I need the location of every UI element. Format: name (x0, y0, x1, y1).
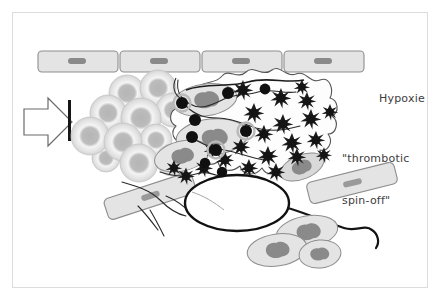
tumor-cell (185, 175, 289, 231)
endothelial-cell (38, 51, 118, 72)
flow-obstruction-bar (68, 100, 71, 141)
figure-root: Hypoxie "thrombotic spin-off" (0, 0, 446, 303)
thrombotic-spin-off-label: "thrombotic spin-off" (342, 124, 409, 236)
endothelial-cell (202, 51, 282, 72)
hypoxia-label: Hypoxie (379, 92, 425, 105)
endothelial-cell (120, 51, 200, 72)
endothelium-top-row (38, 51, 364, 72)
spin-off-line-1: "thrombotic (342, 152, 409, 166)
endothelial-cell (284, 51, 364, 72)
blood-flow-arrow (24, 98, 72, 146)
spin-off-line-2: spin-off" (342, 194, 409, 208)
